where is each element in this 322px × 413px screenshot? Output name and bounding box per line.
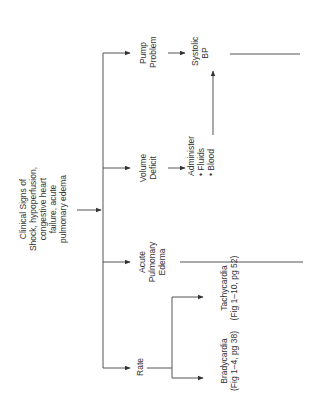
acute-pulmonary-edema-node: Acute Pulmonary Edema: [137, 235, 167, 289]
pump-problem-node: Pump Problem: [138, 38, 158, 68]
administer-node: Administer • Fluids • Blood: [186, 136, 216, 176]
tachycardia-node: Tachycardia (Fig 1–10, pg 52): [219, 252, 239, 324]
root-node-label: Clinical Signs of Shock, hypoperfusion, …: [18, 154, 68, 264]
systolic-bp-node: Systolic BP: [190, 40, 210, 66]
rate-node: Rate: [135, 357, 145, 377]
bradycardia-node: Bradycardia (Fig 1–4, pg 38): [219, 325, 239, 397]
volume-deficit-node: Volume Deficit: [138, 153, 158, 183]
